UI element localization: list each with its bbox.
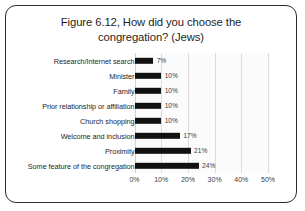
x-tick-label: 30% — [208, 175, 222, 185]
bar-value-label: 7% — [157, 57, 167, 65]
bar-fill — [135, 87, 162, 93]
bar-row: Proximity21% — [0, 143, 305, 158]
bar — [135, 102, 162, 108]
bar-value-label: 10% — [165, 102, 178, 110]
bar-value-label: 21% — [194, 147, 207, 155]
bar-fill — [135, 117, 162, 123]
chart-title: Figure 6.12, How did you choose the cong… — [6, 15, 296, 45]
bar — [135, 57, 154, 63]
bar-value-label: 10% — [165, 72, 178, 80]
x-tick-label: 20% — [181, 175, 195, 185]
category-label: Proximity — [105, 146, 135, 155]
x-tick-label: 50% — [261, 175, 275, 185]
bar-rows: Research/Internet search7%Minister10%Fam… — [0, 53, 305, 173]
bar-row: Welcome and inclusion17% — [0, 128, 305, 143]
bar-row: Church shopping10% — [0, 113, 305, 128]
chart-title-line-2: congregation? (Jews) — [6, 30, 296, 45]
bar — [135, 87, 162, 93]
category-label: Minister — [109, 71, 134, 80]
bar — [135, 147, 191, 153]
bar — [135, 72, 162, 78]
category-label: Some feature of the congregation — [28, 161, 135, 170]
bar-row: Prior relationship or affiliation10% — [0, 98, 305, 113]
bar-row: Some feature of the congregation24% — [0, 158, 305, 173]
x-tick-label: 40% — [234, 175, 248, 185]
bar-value-label: 10% — [165, 87, 178, 95]
x-axis: 0%10%20%30%40%50% — [130, 175, 270, 187]
category-label: Family — [113, 86, 134, 95]
bar — [135, 132, 180, 138]
bar-fill — [135, 72, 162, 78]
chart-title-line-1: Figure 6.12, How did you choose the — [6, 15, 296, 30]
bar — [135, 117, 162, 123]
bar-value-label: 10% — [165, 117, 178, 125]
bar-row: Research/Internet search7% — [0, 53, 305, 68]
category-label: Church shopping — [80, 116, 134, 125]
bar-fill — [135, 57, 154, 63]
category-label: Research/Internet search — [54, 56, 135, 65]
category-label: Welcome and inclusion — [61, 131, 135, 140]
bar-fill — [135, 147, 191, 153]
bar-row: Minister10% — [0, 68, 305, 83]
bar-row: Family10% — [0, 83, 305, 98]
bar-value-label: 24% — [202, 162, 215, 170]
bar-fill — [135, 162, 199, 168]
x-tick-label: 0% — [129, 175, 139, 185]
bar — [135, 162, 199, 168]
bar-value-label: 17% — [183, 132, 196, 140]
x-tick-label: 10% — [154, 175, 168, 185]
bar-fill — [135, 132, 180, 138]
category-label: Prior relationship or affiliation — [42, 101, 134, 110]
bar-fill — [135, 102, 162, 108]
